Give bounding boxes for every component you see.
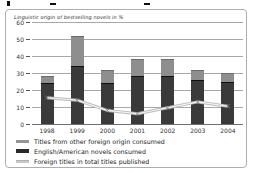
legend-swatch-english-american [16,149,29,153]
legend-label: Foreign titles in total titles published [34,158,149,165]
legend-item-english-american: English/American novels consumed [16,146,165,156]
y-tick-label: 10 [8,104,24,111]
x-tick-label: 1998 [35,127,59,134]
gridline [32,124,243,125]
screenshot-root: { "chart_data": { "type": "bar", "subtyp… [0,0,256,173]
y-tick-label: 0 [8,121,24,128]
legend-item-other-foreign: Titles from other foreign origin consume… [16,136,165,146]
legend-swatch-other-foreign [16,140,29,143]
cropped-heading-fragment [7,1,10,6]
x-tick-label: 2001 [126,127,150,134]
y-tick-label: 30 [8,70,24,77]
legend-swatch-foreign-titles-line [16,160,29,163]
x-tick-label: 2003 [186,127,210,134]
plot-area [32,22,243,124]
chart-card: Linguistic origin of bestselling novels … [5,9,247,168]
y-tick-label: 40 [8,53,24,60]
y-axis-tick [26,73,30,74]
y-tick-label: 60 [8,19,24,26]
legend-item-foreign-titles-line: Foreign titles in total titles published [16,156,165,166]
y-axis-tick [26,22,30,23]
x-tick-label: 1999 [65,127,89,134]
trend-line-layer [32,22,243,124]
y-axis-tick [26,90,30,91]
y-axis-tick [26,124,30,125]
legend-label: Titles from other foreign origin consume… [34,138,165,145]
y-axis-tick [26,56,30,57]
cropped-heading-fragment [50,3,56,5]
x-tick-label: 2004 [216,127,240,134]
y-tick-label: 20 [8,87,24,94]
chart-legend: Titles from other foreign origin consume… [16,136,165,166]
y-axis-tick [26,107,30,108]
legend-label: English/American novels consumed [34,148,146,155]
y-axis-tick [26,39,30,40]
x-tick-label: 2002 [156,127,180,134]
cropped-heading-fragment [144,3,150,5]
y-tick-label: 50 [8,36,24,43]
x-tick-label: 2000 [95,127,119,134]
